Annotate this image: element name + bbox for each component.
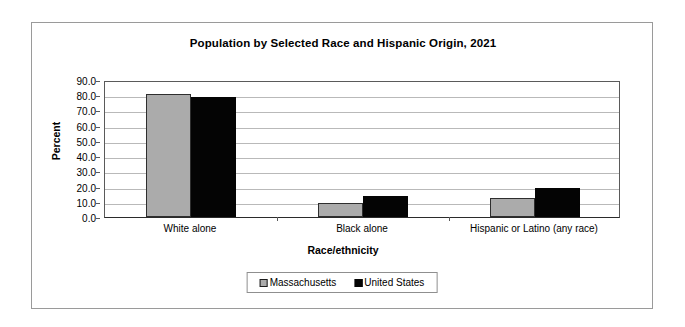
- y-axis-tick-label: 0.0: [82, 213, 96, 224]
- bar: [363, 196, 408, 217]
- bar: [191, 97, 236, 217]
- bar: [490, 198, 535, 217]
- x-axis-tick-label: Hispanic or Latino (any race): [470, 223, 598, 234]
- y-axis-tick-label: 40.0: [77, 152, 96, 163]
- legend-swatch-icon: [354, 279, 362, 287]
- y-axis-tick-label: 60.0: [77, 121, 96, 132]
- chart-title: Population by Selected Race and Hispanic…: [32, 37, 654, 49]
- y-axis-tick-mark: [96, 142, 100, 143]
- legend-label: United States: [364, 277, 424, 288]
- legend-label: Massachusetts: [270, 277, 337, 288]
- plot-area: [104, 81, 620, 218]
- bars-layer: [105, 82, 619, 217]
- x-axis-tick-label: Black alone: [336, 223, 388, 234]
- x-axis-category-separator: [449, 217, 450, 221]
- x-axis-tick-label: White alone: [164, 223, 217, 234]
- x-axis-category-separator: [277, 217, 278, 221]
- y-axis-tick-label: 10.0: [77, 197, 96, 208]
- x-axis-title: Race/ethnicity: [32, 244, 654, 256]
- y-axis-tick-mark: [96, 96, 100, 97]
- y-axis-tick-mark: [96, 127, 100, 128]
- legend-entry[interactable]: Massachusetts: [260, 277, 337, 288]
- y-axis-tick-mark: [96, 111, 100, 112]
- y-axis-tick-mark: [96, 157, 100, 158]
- y-axis-tick-label: 50.0: [77, 136, 96, 147]
- y-axis-tick-label: 90.0: [77, 76, 96, 87]
- y-axis-tick-mark: [96, 203, 100, 204]
- y-axis-tick-mark: [96, 81, 100, 82]
- bar: [146, 94, 191, 217]
- x-axis-tick-labels: White aloneBlack aloneHispanic or Latino…: [104, 223, 620, 239]
- y-axis-tick-label: 20.0: [77, 182, 96, 193]
- y-axis-tick-mark: [96, 188, 100, 189]
- bar: [535, 188, 580, 217]
- chart-figure-frame: Population by Selected Race and Hispanic…: [31, 22, 653, 309]
- y-axis-tick-label: 80.0: [77, 91, 96, 102]
- y-axis-tick-label: 30.0: [77, 167, 96, 178]
- y-axis-tick-mark: [96, 218, 100, 219]
- y-axis-tick-mark: [96, 172, 100, 173]
- y-axis-tick-labels: 90.080.070.060.050.040.030.020.010.00.0: [58, 81, 100, 218]
- chart-legend: MassachusettsUnited States: [247, 272, 438, 293]
- bar: [318, 203, 363, 217]
- legend-swatch-icon: [260, 279, 268, 287]
- y-axis-tick-label: 70.0: [77, 106, 96, 117]
- legend-entry[interactable]: United States: [354, 277, 424, 288]
